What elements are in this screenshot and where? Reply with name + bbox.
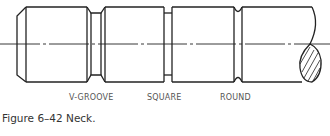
label-square: SQUARE [147,93,182,102]
chamfer-end [17,7,26,82]
figure-caption: Figure 6–42 Neck. [2,112,96,124]
label-v-groove: V-GROOVE [69,93,114,102]
v-groove-neck [87,7,105,13]
round-neck [234,7,242,12]
shaft-neck-drawing [0,0,330,100]
break-line [310,7,316,44]
label-round: ROUND [220,93,251,102]
